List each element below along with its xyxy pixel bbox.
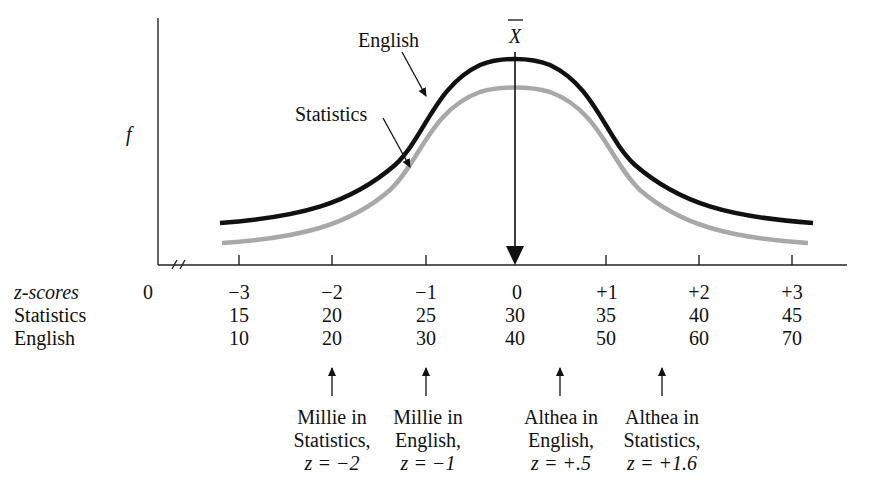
y-axis-label: f xyxy=(126,123,134,146)
z-value: −2 xyxy=(302,280,362,304)
english-pointer xyxy=(402,52,426,96)
z-value: +3 xyxy=(762,280,822,304)
z-value: +1 xyxy=(577,280,637,304)
annotation-millie-english: Millie inEnglish,z = −1 xyxy=(363,406,493,475)
statistics-label: Statistics xyxy=(295,103,367,125)
statistics-value: 30 xyxy=(485,303,545,327)
z-value: +2 xyxy=(669,280,729,304)
z-value: 0 xyxy=(487,280,547,304)
row-label-english: English xyxy=(14,326,75,350)
statistics-value: 20 xyxy=(302,303,362,327)
annotation-althea-statistics: Althea inStatistics,z = +1.6 xyxy=(597,406,727,475)
statistics-value: 45 xyxy=(762,303,822,327)
z-value: −3 xyxy=(209,280,269,304)
annotation-arrows xyxy=(332,368,662,396)
row-label-statistics: Statistics xyxy=(14,303,86,327)
statistics-value: 15 xyxy=(209,303,269,327)
english-value: 60 xyxy=(669,326,729,350)
english-value: 30 xyxy=(396,326,456,350)
english-value: 20 xyxy=(302,326,362,350)
english-curve xyxy=(220,59,813,223)
english-value: 40 xyxy=(485,326,545,350)
statistics-value: 25 xyxy=(396,303,456,327)
english-value: 10 xyxy=(209,326,269,350)
english-label: English xyxy=(358,29,419,52)
z-value: −1 xyxy=(396,280,456,304)
mean-arrowhead-icon xyxy=(506,246,524,265)
mean-label: X xyxy=(508,25,522,47)
statistics-value: 40 xyxy=(669,303,729,327)
statistics-pointer xyxy=(383,118,410,167)
english-value: 70 xyxy=(762,326,822,350)
english-value: 50 xyxy=(576,326,636,350)
statistics-value: 35 xyxy=(576,303,636,327)
row-label-z-scores: z-scores xyxy=(14,280,79,304)
zero-label: 0 xyxy=(118,280,178,304)
